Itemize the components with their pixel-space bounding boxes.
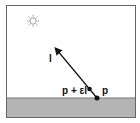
label-direction: l [49,53,52,64]
point-p-offset [87,87,92,92]
label-offset-point: p + εl [62,85,87,96]
shadow-ray-diagram: l p + εl p [0,0,140,123]
label-point: p [102,85,108,96]
point-p [95,96,100,101]
ground-surface [7,98,135,117]
